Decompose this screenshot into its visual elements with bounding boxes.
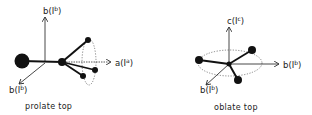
b-axis-diagonal: [206, 64, 229, 85]
axis-label-b-diagonal: b(Ib): [9, 84, 27, 95]
prolate-top-diagram: b(Ib) a(Ia) b(Ib) prolate top: [9, 5, 133, 111]
atom: [234, 76, 242, 84]
atom: [248, 46, 256, 54]
axis-label-c: c(Ic): [227, 15, 244, 26]
atom: [80, 73, 86, 79]
center-atom: [227, 62, 232, 67]
caption-oblate-top: oblate top: [214, 103, 258, 112]
oblate-top-diagram: c(Ic) b(Ib) b(Ib) oblate top: [195, 15, 301, 112]
bond: [229, 50, 252, 64]
axis-label-b-diagonal: b(Ib): [200, 84, 218, 95]
bond: [199, 60, 229, 64]
atom: [85, 37, 91, 43]
bond: [62, 40, 88, 62]
axis-label-b-vertical: b(Ib): [43, 5, 61, 16]
axis-label-a: a(Ia): [115, 57, 133, 68]
atom: [195, 56, 203, 64]
large-atom: [15, 54, 30, 69]
symmetric-top-diagrams: b(Ib) a(Ia) b(Ib) prolate top c(Ic) b(Ib…: [0, 0, 312, 115]
center-atom: [58, 58, 66, 66]
caption-prolate-top: prolate top: [25, 102, 72, 111]
axis-label-b-horizontal: b(Ib): [283, 59, 301, 70]
atom: [92, 67, 98, 73]
